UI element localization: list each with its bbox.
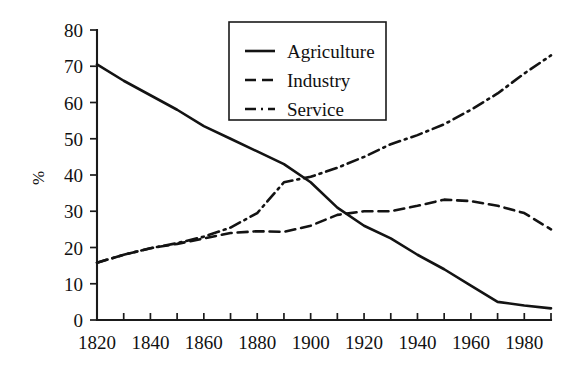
legend-label-industry: Industry: [287, 70, 351, 91]
x-tick-label: 1920: [345, 332, 383, 353]
y-tick-label: 30: [64, 201, 83, 222]
y-tick-label: 70: [64, 56, 83, 77]
x-tick-label: 1980: [505, 332, 543, 353]
x-tick-label: 1860: [185, 332, 223, 353]
y-tick-label: 40: [64, 165, 83, 186]
x-tick-label: 1900: [292, 332, 330, 353]
x-tick-label: 1820: [78, 332, 116, 353]
chart-legend: AgricultureIndustryService: [229, 22, 386, 120]
x-tick-label: 1960: [452, 332, 490, 353]
series-line-industry: [97, 200, 551, 263]
y-axis-title: %: [29, 171, 48, 185]
y-tick-label: 20: [64, 238, 83, 259]
y-tick-label: 80: [64, 20, 83, 41]
line-chart: 01020304050607080 % 18201840186018801900…: [0, 0, 584, 375]
y-axis-tick-labels: 01020304050607080: [64, 20, 83, 331]
y-tick-label: 50: [64, 129, 83, 150]
chart-container: 01020304050607080 % 18201840186018801900…: [0, 0, 584, 375]
x-axis: 182018401860188019001920194019601980: [78, 313, 551, 353]
x-tick-label: 1940: [398, 332, 436, 353]
y-tick-label: 0: [74, 310, 84, 331]
x-axis-tick-labels: 182018401860188019001920194019601980: [78, 332, 543, 353]
y-axis: 01020304050607080 %: [29, 20, 98, 331]
legend-label-service: Service: [287, 99, 344, 120]
legend-label-agriculture: Agriculture: [287, 41, 375, 62]
x-tick-label: 1840: [131, 332, 169, 353]
x-tick-label: 1880: [238, 332, 276, 353]
y-tick-label: 10: [64, 274, 83, 295]
y-tick-label: 60: [64, 93, 83, 114]
